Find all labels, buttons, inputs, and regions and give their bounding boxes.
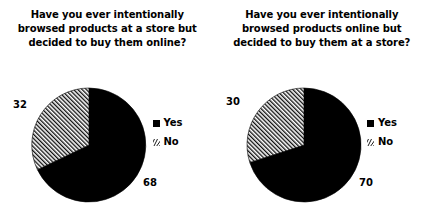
legend-left: Yes No <box>153 118 209 156</box>
legend-swatch-hatch-icon <box>153 139 160 146</box>
pie-label-no-left: 32 <box>13 99 27 110</box>
legend-right: Yes No <box>367 118 423 156</box>
legend-item-no-right[interactable]: No <box>367 137 423 147</box>
pie-chart-right: 30 70 <box>221 78 381 208</box>
chart-panel-left: Have you ever intentionally browsed prod… <box>0 0 215 212</box>
chart-panel-right: Have you ever intentionally browsed prod… <box>215 0 429 212</box>
pie-label-yes-right: 70 <box>359 177 373 188</box>
legend-label-no-right: No <box>378 137 393 147</box>
pie-area-right: 30 70 Yes No <box>215 78 429 212</box>
legend-item-yes-left[interactable]: Yes <box>153 118 209 128</box>
pie-label-yes-left: 68 <box>143 177 157 188</box>
two-pie-chart-figure: Have you ever intentionally browsed prod… <box>0 0 429 212</box>
legend-label-no-left: No <box>164 137 179 147</box>
legend-label-yes-left: Yes <box>164 118 183 128</box>
pie-area-left: 32 68 Yes No <box>0 78 215 212</box>
legend-swatch-solid-icon <box>153 120 160 127</box>
legend-item-no-left[interactable]: No <box>153 137 209 147</box>
legend-swatch-hatch-icon <box>367 139 374 146</box>
page-title-left: Have you ever intentionally browsed prod… <box>0 8 215 50</box>
page-title-right: Have you ever intentionally browsed prod… <box>215 8 429 50</box>
legend-label-yes-right: Yes <box>378 118 397 128</box>
legend-item-yes-right[interactable]: Yes <box>367 118 423 128</box>
pie-chart-left: 32 68 <box>6 78 166 208</box>
legend-swatch-solid-icon <box>367 120 374 127</box>
pie-label-no-right: 30 <box>226 96 240 107</box>
